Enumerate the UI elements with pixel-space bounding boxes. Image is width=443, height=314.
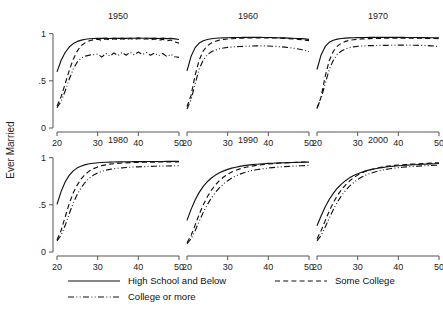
x-tick-label-30: 30 [353,262,363,272]
series-line-solid-1960 [187,37,309,70]
panel-1960: 196020304050 [182,11,314,148]
legend-label-solid: High School and Below [128,275,226,286]
series-line-solid-1990 [187,162,309,220]
x-tick-label-20: 20 [312,138,322,148]
panel-1990: 199020304050 [182,135,314,272]
series-line-dash-dot-dot-1950 [57,52,179,108]
panel-1950: 19500.5120304050 [38,11,184,148]
x-tick-label-40: 40 [263,262,273,272]
x-tick-label-50: 50 [434,138,443,148]
y-tick-label-0: 0 [41,247,46,257]
y-tick-label-0: 0 [41,123,46,133]
x-tick-label-20: 20 [182,138,192,148]
x-tick-label-30: 30 [353,138,363,148]
x-tick-label-20: 20 [52,262,62,272]
panel-2000: 200020304050 [312,135,443,272]
x-tick-label-40: 40 [393,262,403,272]
panel-title-1970: 1970 [368,11,388,21]
series-line-dash-dot-dot-1980 [57,166,179,241]
legend-label-dash-dot-dot: College or more [128,291,196,302]
series-line-dash-dot-dot-2000 [317,165,439,241]
series-line-dash-dot-dot-1970 [317,45,439,108]
series-line-dashed-2000 [317,163,439,239]
panel-1970: 197020304050 [312,11,443,148]
series-line-dash-dot-dot-1960 [187,46,309,109]
series-line-dash-dot-dot-1990 [187,165,309,244]
series-line-solid-2000 [317,164,439,226]
x-tick-label-30: 30 [93,138,103,148]
panel-title-1980: 1980 [108,135,128,145]
series-line-solid-1970 [317,37,439,69]
y-tick-label-.5: .5 [38,76,46,86]
panel-title-1990: 1990 [238,135,258,145]
series-line-dashed-1990 [187,162,309,243]
panel-title-1960: 1960 [238,11,258,21]
chart-legend: High School and BelowSome CollegeCollege… [68,275,395,302]
legend-label-dashed: Some College [335,275,395,286]
panel-title-1950: 1950 [108,11,128,21]
y-tick-label-1: 1 [41,29,46,39]
ever-married-panel-chart: 19500.5120304050196020304050197020304050… [0,0,443,314]
x-tick-label-20: 20 [312,262,322,272]
x-tick-label-30: 30 [223,262,233,272]
x-tick-label-20: 20 [52,138,62,148]
y-axis-label: Ever Married [5,121,16,178]
x-tick-label-40: 40 [263,138,273,148]
y-tick-label-.5: .5 [38,200,46,210]
x-tick-label-40: 40 [133,262,143,272]
panel-title-2000: 2000 [368,135,388,145]
x-tick-label-30: 30 [223,138,233,148]
series-line-dashed-1970 [317,38,439,108]
x-tick-label-50: 50 [434,262,443,272]
chart-figure: 19500.5120304050196020304050197020304050… [0,0,443,314]
x-tick-label-40: 40 [393,138,403,148]
series-line-dashed-1950 [57,38,179,106]
series-line-dashed-1980 [57,162,179,240]
x-tick-label-30: 30 [93,262,103,272]
panel-1980: 19800.5120304050 [38,135,184,272]
x-tick-label-40: 40 [133,138,143,148]
y-tick-label-1: 1 [41,153,46,163]
x-tick-label-20: 20 [182,262,192,272]
